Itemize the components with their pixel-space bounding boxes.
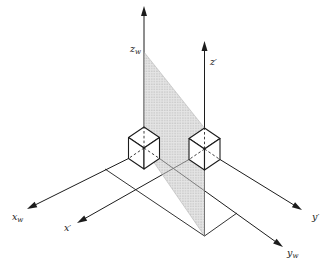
axis-label-zw: zw	[129, 43, 141, 56]
axis-line-xw	[35, 159, 128, 205]
axis-arrowhead-xw	[27, 202, 37, 209]
axis-arrowhead-yw	[273, 239, 283, 247]
axis-arrowhead-zw	[141, 6, 147, 16]
axis-arrowhead-xp	[77, 215, 87, 223]
axis-label-xw: xw	[12, 211, 23, 224]
axis-label-yp: y′	[311, 211, 319, 222]
axis-arrowhead-zp	[202, 41, 208, 51]
diagram-canvas: zwz′xwx′ywy′	[0, 0, 336, 265]
coordinate-systems-diagram: zwz′xwx′ywy′	[0, 0, 336, 265]
axis-label-yw: yw	[286, 247, 298, 260]
axis-arrowhead-yp	[292, 202, 302, 210]
axis-label-xp: x′	[64, 222, 71, 233]
axis-label-zp: z′	[209, 56, 217, 67]
segment-y-offset-to-ground-point	[205, 213, 238, 236]
axis-line-yp	[220, 160, 294, 206]
